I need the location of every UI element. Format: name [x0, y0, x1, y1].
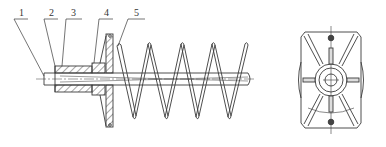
drawing-canvas: 1 2 3 4 5 [0, 0, 386, 147]
part-label-3: 3 [71, 7, 76, 18]
part-label-5: 5 [134, 7, 139, 18]
end-view [299, 26, 364, 134]
part-label-4: 4 [104, 7, 109, 18]
part-label-1: 1 [19, 7, 24, 18]
side-section-view [14, 19, 255, 127]
bolt-hole-top [328, 35, 334, 41]
helical-spring [117, 43, 248, 119]
part-label-2: 2 [49, 7, 54, 18]
bolt-hole-bottom [328, 119, 334, 125]
